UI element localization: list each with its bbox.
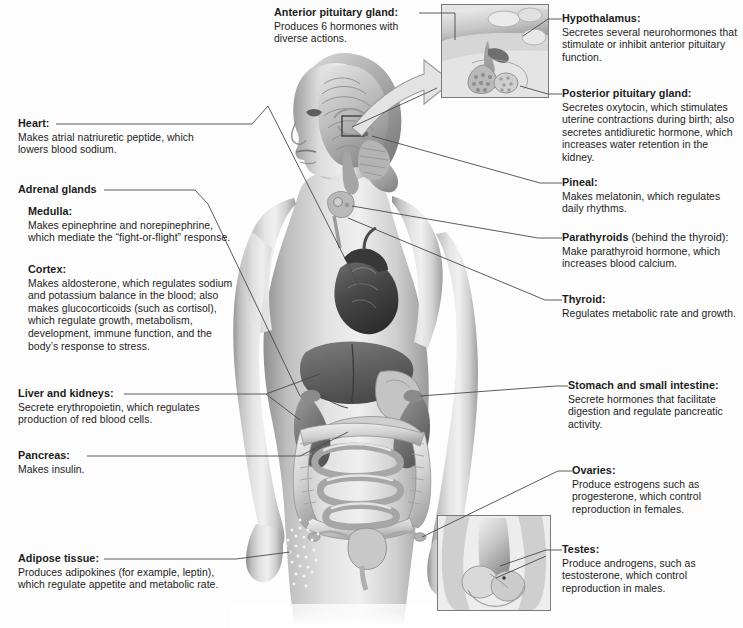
label-body: Produces adipokines (for example, leptin… <box>18 567 236 592</box>
pancreas-organ <box>328 417 424 441</box>
label-body: Secrete erythropoietin, which regulates … <box>18 402 226 427</box>
label-title: Testes: <box>562 543 599 555</box>
label-title: Stomach and small intestine: <box>568 379 719 391</box>
label-title: Adrenal glands <box>18 183 97 195</box>
label-title: Pancreas: <box>18 449 70 461</box>
label-title: Parathyroids (behind the thyroid): <box>562 231 729 243</box>
label-body: Secretes several neurohormones that stim… <box>562 27 738 65</box>
label-body: Produces 6 hormones with diverse actions… <box>274 21 420 46</box>
kidneys-organ <box>294 390 430 469</box>
thyroid-organ <box>328 192 354 249</box>
callout-hypothalamus: Hypothalamus: Secretes several neurohorm… <box>562 12 738 64</box>
callout-adrenal-glands: Adrenal glands <box>18 183 218 197</box>
callout-parathyroids: Parathyroids (behind the thyroid): Make … <box>562 231 742 271</box>
callout-medulla: Medulla: Makes epinephrine and norepinep… <box>28 205 240 245</box>
callout-cortex: Cortex: Makes aldosterone, which regulat… <box>28 263 240 353</box>
label-title: Posterior pituitary gland: <box>562 87 692 99</box>
label-title: Medulla: <box>28 205 72 217</box>
callout-posterior-pituitary: Posterior pituitary gland: Secretes oxyt… <box>562 87 742 165</box>
small-intestine-organ <box>315 446 401 527</box>
head-profile <box>292 53 402 195</box>
label-body: Makes atrial natriuretic peptide, which … <box>18 132 218 157</box>
stomach-organ <box>376 371 421 421</box>
label-title: Cortex: <box>28 263 66 275</box>
label-body: Makes melatonin, which regulates daily r… <box>562 191 734 216</box>
callout-thyroid: Thyroid: Regulates metabolic rate and gr… <box>562 293 742 320</box>
heart-organ <box>334 228 398 334</box>
label-body: Secrete hormones that facilitate digesti… <box>568 394 742 432</box>
small-intestine-highlight <box>324 444 392 508</box>
callout-anterior-pituitary: Anterior pituitary gland: Produces 6 hor… <box>274 6 420 46</box>
label-title: Liver and kidneys: <box>18 387 114 399</box>
label-title: Heart: <box>18 117 49 129</box>
label-title: Thyroid: <box>562 293 606 305</box>
adipose-tissue-stipple <box>285 519 320 588</box>
label-body: Produce estrogens such as progesterone, … <box>572 479 738 517</box>
callout-heart: Heart: Makes atrial natriuretic peptide,… <box>18 117 218 157</box>
label-title-qualifier: (behind the thyroid): <box>629 231 729 243</box>
callout-pineal: Pineal: Makes melatonin, which regulates… <box>562 176 734 216</box>
testes-inset <box>437 515 551 611</box>
callout-testes: Testes: Produce androgens, such as testo… <box>562 543 728 595</box>
pituitary-inset <box>441 4 549 98</box>
callout-adipose-tissue: Adipose tissue: Produces adipokines (for… <box>18 552 236 592</box>
label-body: Makes aldosterone, which regulates sodiu… <box>28 278 240 354</box>
callout-ovaries: Ovaries: Produce estrogens such as proge… <box>572 464 738 516</box>
label-body: Makes insulin. <box>18 464 218 477</box>
label-title: Ovaries: <box>572 464 616 476</box>
label-title: Hypothalamus: <box>562 12 641 24</box>
label-body: Makes epinephrine and norepinephrine, wh… <box>28 220 240 245</box>
label-title: Pineal: <box>562 176 598 188</box>
label-body: Secretes oxytocin, which stimulates uter… <box>562 102 742 165</box>
large-intestine-organ <box>293 423 431 540</box>
endocrine-diagram: Anterior pituitary gland: Produces 6 hor… <box>0 0 743 628</box>
label-title: Adipose tissue: <box>18 552 99 564</box>
callout-liver-kidneys: Liver and kidneys: Secrete erythropoieti… <box>18 387 226 427</box>
label-body: Regulates metabolic rate and growth. <box>562 308 742 321</box>
callout-stomach-small-intestine: Stomach and small intestine: Secrete hor… <box>568 379 742 431</box>
liver-organ <box>300 341 413 408</box>
label-body: Make parathyroid hormone, which increase… <box>562 246 742 271</box>
callout-pancreas: Pancreas: Makes insulin. <box>18 449 218 476</box>
label-title: Anterior pituitary gland: <box>274 6 398 18</box>
uterus-ovaries-organ <box>308 528 426 590</box>
label-body: Produce androgens, such as testosterone,… <box>562 558 728 596</box>
